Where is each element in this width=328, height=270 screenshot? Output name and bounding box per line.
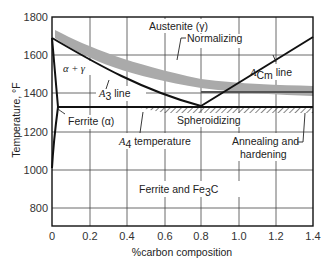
ferrite-boundary	[52, 38, 58, 168]
label-hardening: hardening	[240, 148, 287, 160]
spheroidizing-band	[140, 108, 313, 113]
label-spheroidizing: Spheroidizing	[177, 114, 241, 126]
svg-text:0.2: 0.2	[82, 230, 97, 242]
svg-text:800: 800	[30, 202, 48, 214]
y-axis-ticks: 800 1000 1200 1400 1600 1800	[24, 11, 48, 214]
svg-text:0: 0	[49, 230, 55, 242]
svg-text:1800: 1800	[24, 11, 48, 23]
svg-text:1.0: 1.0	[231, 230, 246, 242]
svg-text:1200: 1200	[24, 126, 48, 138]
x-axis-ticks: 0 0.2 0.4 0.6 0.8 1.0 1.2 1.4	[49, 230, 321, 242]
label-ferrite: Ferrite (α)	[68, 115, 114, 127]
label-annealing: Annealing and	[232, 135, 299, 147]
svg-text:0.6: 0.6	[157, 230, 172, 242]
y-axis-label: Temperature, °F	[10, 82, 22, 157]
label-austenite: Austenite (γ)	[149, 20, 208, 32]
svg-text:1.2: 1.2	[268, 230, 283, 242]
phase-diagram: Austenite (γ) Normalizing ACm line α + γ…	[0, 0, 328, 270]
label-normalizing: Normalizing	[187, 32, 243, 44]
x-axis-label: %carbon composition	[132, 246, 233, 258]
label-alpha-gamma: α + γ	[63, 63, 86, 74]
svg-text:1000: 1000	[24, 164, 48, 176]
svg-text:1600: 1600	[24, 49, 48, 61]
svg-text:1400: 1400	[24, 87, 48, 99]
svg-text:0.8: 0.8	[193, 230, 208, 242]
svg-text:0.4: 0.4	[119, 230, 134, 242]
svg-text:1.4: 1.4	[305, 230, 320, 242]
